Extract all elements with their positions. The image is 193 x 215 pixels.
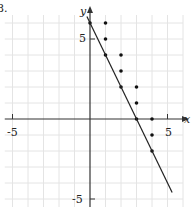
data-point	[104, 21, 108, 25]
data-point	[135, 85, 139, 89]
y-tick-label-5: 5	[79, 32, 86, 45]
data-point	[135, 101, 139, 105]
data-point	[104, 37, 108, 41]
data-point	[119, 53, 123, 57]
data-point	[150, 133, 154, 137]
boundary-line	[87, 17, 172, 193]
grid-lines	[5, 15, 183, 207]
data-series	[87, 17, 172, 193]
x-tick-label-neg5: -5	[7, 126, 18, 139]
data-point	[119, 69, 123, 73]
x-axis-label: x	[184, 113, 191, 126]
y-axis-label: y	[79, 5, 87, 18]
y-axis-arrow-icon	[87, 6, 93, 13]
chart: y x -5 5 5 -5	[0, 0, 193, 215]
y-tick-label-neg5: -5	[72, 193, 83, 206]
data-point	[150, 117, 154, 121]
x-tick-label-5: 5	[165, 126, 172, 139]
